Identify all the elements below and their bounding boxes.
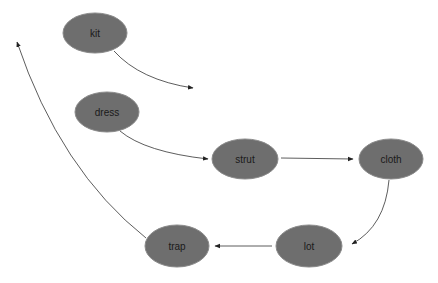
edge-strut-cloth (281, 158, 353, 159)
node-lot[interactable]: lot (276, 225, 342, 267)
node-label: trap (168, 241, 186, 252)
edge-cloth-lot (352, 180, 389, 244)
node-label: kit (90, 28, 100, 39)
node-cloth[interactable]: cloth (359, 139, 423, 179)
node-dress[interactable]: dress (75, 92, 139, 132)
node-strut[interactable]: strut (212, 139, 278, 179)
node-label: lot (304, 241, 315, 252)
edge-trap-dangling (17, 42, 146, 238)
node-kit[interactable]: kit (63, 13, 127, 53)
edge-kit-dangling (114, 51, 193, 88)
graph-canvas: kit dress strut cloth lot trap (0, 0, 438, 283)
node-label: dress (95, 107, 119, 118)
node-label: cloth (380, 154, 401, 165)
edge-dress-strut (120, 131, 208, 159)
node-trap[interactable]: trap (145, 225, 209, 267)
node-label: strut (235, 154, 255, 165)
